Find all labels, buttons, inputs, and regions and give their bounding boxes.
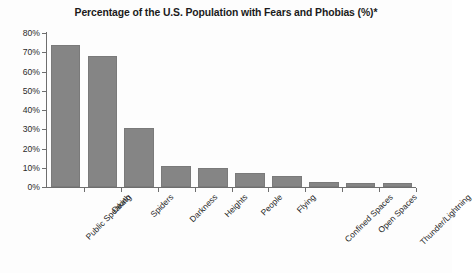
plot-area — [47, 33, 416, 187]
bar — [346, 183, 376, 187]
chart-title: Percentage of the U.S. Population with F… — [0, 7, 452, 18]
y-axis-tick-label: 70% — [23, 47, 40, 57]
x-axis-category-label: Flying — [294, 192, 317, 215]
x-axis-category-label: Heights — [222, 192, 249, 219]
bar — [383, 183, 413, 187]
x-axis-category-label-text: People — [258, 192, 284, 218]
x-axis-tick — [416, 188, 417, 192]
bar — [161, 166, 191, 187]
x-axis-tick — [379, 188, 380, 192]
x-axis-category-label: Thunder/Lightning — [418, 192, 473, 247]
x-axis-tick — [268, 188, 269, 192]
x-axis-category-label: Darkness — [187, 192, 219, 224]
x-axis-tick — [84, 188, 85, 192]
x-axis-tick — [195, 188, 196, 192]
bar — [124, 128, 154, 187]
bar — [198, 168, 228, 187]
x-axis-category-label-text: Heights — [222, 192, 249, 219]
x-axis-category-label: Spiders — [148, 192, 175, 219]
y-axis-tick-label: 0% — [28, 182, 40, 192]
y-axis-tick-label: 50% — [23, 86, 40, 96]
x-axis-tick — [342, 188, 343, 192]
y-axis-tick — [42, 187, 47, 188]
bar — [235, 173, 265, 187]
x-axis-category-label-text: Thunder/Lightning — [418, 192, 473, 247]
x-axis-tick — [305, 188, 306, 192]
y-axis-tick-label: 10% — [23, 163, 40, 173]
x-axis-tick — [232, 188, 233, 192]
x-axis-category-label-text: Death — [110, 192, 133, 215]
bar — [51, 45, 81, 187]
y-axis-tick-label: 20% — [23, 144, 40, 154]
y-axis-tick-label: 80% — [23, 28, 40, 38]
x-axis-category-label-text: Darkness — [187, 192, 219, 224]
bar — [309, 182, 339, 187]
y-axis-tick-label: 30% — [23, 124, 40, 134]
x-axis-category-label-text: Flying — [294, 192, 317, 215]
y-axis-tick-label: 60% — [23, 67, 40, 77]
bar — [272, 176, 302, 187]
x-axis-category-label-text: Spiders — [148, 192, 175, 219]
x-axis-tick — [158, 188, 159, 192]
x-axis-category-label: Death — [110, 192, 133, 215]
bar — [88, 56, 118, 187]
x-axis-category-label: People — [258, 192, 284, 218]
y-axis-tick-label: 40% — [23, 105, 40, 115]
x-axis-tick — [121, 188, 122, 192]
